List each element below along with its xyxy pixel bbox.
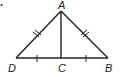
- label-B: B: [105, 62, 112, 74]
- label-D: D: [8, 62, 16, 74]
- triangle-lines: [16, 11, 108, 58]
- segment-AB: [61, 11, 108, 58]
- triangle-diagram: A B C D: [0, 0, 120, 77]
- bullet-dot: [1, 4, 3, 6]
- label-A: A: [57, 0, 65, 11]
- label-C: C: [58, 62, 66, 74]
- segment-AD: [16, 11, 61, 58]
